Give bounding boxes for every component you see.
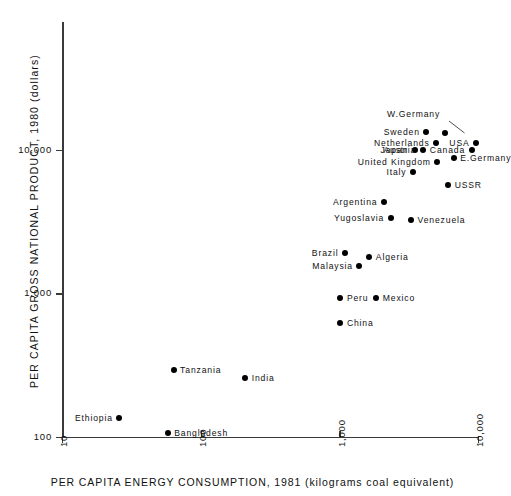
data-point-canada[interactable]	[469, 147, 475, 153]
x-tick-label-10000: 10,000	[474, 413, 485, 447]
y-axis-title: PER CAPITA GROSS NATIONAL PRODUCT, 1980 …	[28, 41, 40, 401]
data-point-yugoslavia[interactable]	[388, 215, 394, 221]
x-tick-label-1000: 1,000	[336, 419, 347, 447]
data-point-argentina[interactable]	[381, 199, 387, 205]
data-point-algeria[interactable]	[366, 254, 372, 260]
data-point-label-e-germany: E.Germany	[460, 153, 511, 163]
data-point-ussr[interactable]	[445, 182, 451, 188]
data-point-label-venezuela: Venezuela	[418, 215, 466, 225]
data-point-austria[interactable]	[420, 147, 426, 153]
data-point-label-ethiopia: Ethiopia	[75, 413, 113, 423]
data-point-china[interactable]	[337, 320, 343, 326]
data-point-label-china: China	[347, 318, 374, 328]
data-point-label-united-kingdom: United Kingdom	[358, 157, 431, 167]
x-axis-title: PER CAPITA ENERGY CONSUMPTION, 1981 (kil…	[0, 476, 505, 488]
data-point-label-mexico: Mexico	[383, 293, 415, 303]
data-point-malaysia[interactable]	[356, 263, 362, 269]
data-point-usa[interactable]	[473, 140, 479, 146]
data-point-brazil[interactable]	[342, 250, 348, 256]
data-point-united-kingdom[interactable]	[434, 159, 440, 165]
data-point-sweden[interactable]	[423, 129, 429, 135]
data-point-japan[interactable]	[412, 147, 418, 153]
data-point-w-germany[interactable]	[442, 130, 448, 136]
y-tick-label-100: 100	[0, 431, 52, 442]
y-axis-line	[62, 22, 64, 438]
x-axis-line	[62, 437, 479, 439]
data-point-venezuela[interactable]	[408, 217, 414, 223]
data-point-label-malaysia: Malaysia	[312, 261, 353, 271]
data-point-india[interactable]	[242, 375, 248, 381]
data-point-label-tanzania: Tanzania	[180, 365, 221, 375]
data-point-label-peru: Peru	[347, 293, 369, 303]
data-point-label-bangladesh: Bangladesh	[174, 428, 228, 438]
data-point-label-argentina: Argentina	[333, 197, 377, 207]
y-tick-label-1000: 1,000	[0, 287, 52, 298]
data-point-label-algeria: Algeria	[376, 252, 409, 262]
data-point-label-w-germany: W.Germany	[387, 109, 440, 119]
data-point-label-italy: Italy	[386, 167, 406, 177]
data-point-label-japan: Japan	[381, 145, 409, 155]
data-point-label-india: India	[252, 373, 275, 383]
data-point-ethiopia[interactable]	[116, 415, 122, 421]
data-point-e-germany[interactable]	[451, 155, 457, 161]
data-point-italy[interactable]	[410, 169, 416, 175]
data-point-label-sweden: Sweden	[384, 127, 420, 137]
data-point-label-ussr: USSR	[455, 180, 482, 190]
y-tick-1000	[56, 293, 62, 295]
data-point-label-yugoslavia: Yugoslavia	[334, 213, 384, 223]
data-point-label-brazil: Brazil	[312, 248, 339, 258]
data-point-mexico[interactable]	[373, 295, 379, 301]
data-point-bangladesh[interactable]	[165, 430, 171, 436]
y-tick-10000	[56, 150, 62, 152]
data-point-peru[interactable]	[337, 295, 343, 301]
y-tick-label-10000: 10,000	[0, 144, 52, 155]
x-tick-label-10: 10	[58, 435, 69, 447]
data-point-tanzania[interactable]	[171, 367, 177, 373]
